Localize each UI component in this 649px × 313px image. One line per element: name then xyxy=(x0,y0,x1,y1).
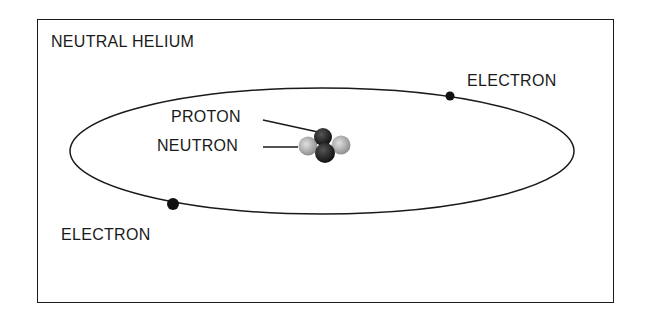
diagram-title: NEUTRAL HELIUM xyxy=(51,33,194,51)
proton-bottom xyxy=(315,143,335,163)
electron-label-bottom: ELECTRON xyxy=(61,226,151,244)
proton-label: PROTON xyxy=(171,108,241,126)
electron-bottom xyxy=(167,198,179,210)
nucleus xyxy=(299,128,351,163)
electron-top xyxy=(446,92,455,101)
neutron-label: NEUTRON xyxy=(157,137,238,155)
proton-pointer xyxy=(263,120,318,132)
electron-label-top: ELECTRON xyxy=(467,72,557,90)
